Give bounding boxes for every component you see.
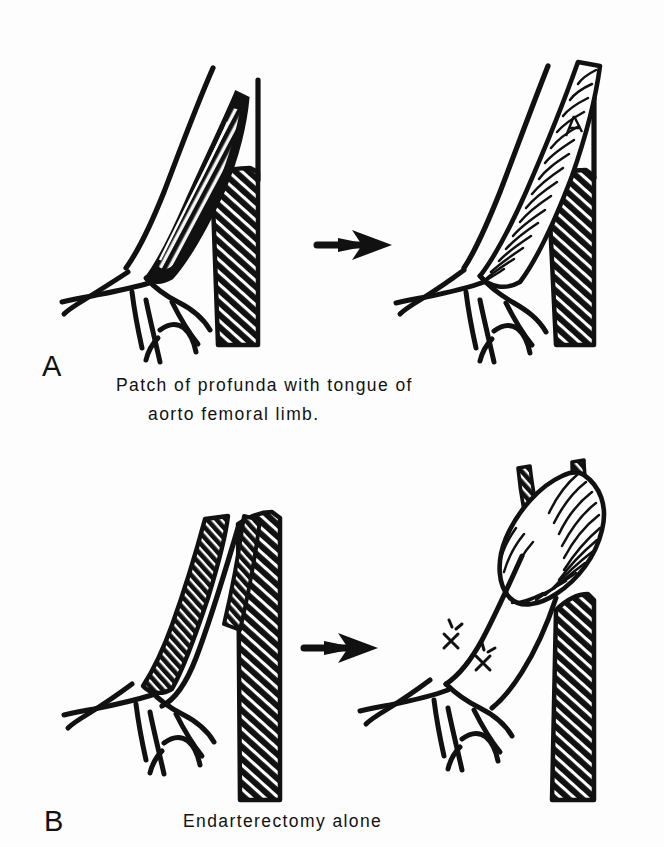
bifurcation-branches-a2 <box>396 270 546 362</box>
figure-page: A Patch of profunda with tongue of aorto… <box>0 0 664 847</box>
panel-a-preop-illustration <box>62 68 258 362</box>
bifurcation-branches-b2 <box>360 680 512 770</box>
caption-a-line-2: aorto femoral limb. <box>148 404 320 425</box>
panel-label-b: B <box>44 805 63 838</box>
panel-b-preop-illustration <box>64 512 280 800</box>
transition-arrow-b <box>304 633 378 663</box>
panel-a-postop-illustration <box>396 62 600 362</box>
transition-arrow-a <box>317 230 392 260</box>
surgical-illustration <box>0 0 664 847</box>
bifurcation-branches-a <box>62 272 210 362</box>
corrugated-graft-limb-b <box>499 472 604 604</box>
panel-b-postop-illustration <box>360 460 604 800</box>
bifurcation-branches-b <box>64 684 214 774</box>
suture-x-mark-upper <box>444 620 462 648</box>
caption-b-line-1: Endarterectomy alone <box>183 811 382 832</box>
caption-a-line-1: Patch of profunda with tongue of <box>116 375 413 396</box>
panel-label-a: A <box>42 350 61 383</box>
occluded-superficial-femoral-artery-b2 <box>552 594 594 800</box>
